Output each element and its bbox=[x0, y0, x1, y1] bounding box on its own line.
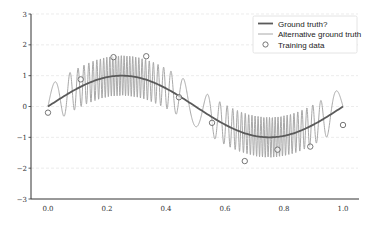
y-tick-label: −1 bbox=[17, 134, 27, 142]
legend-label-ground-truth: Ground truth? bbox=[278, 20, 328, 29]
training-point bbox=[275, 147, 280, 152]
y-tick-label: −2 bbox=[17, 165, 27, 173]
training-point bbox=[209, 120, 214, 125]
training-point bbox=[45, 110, 50, 115]
x-tick-label: 0.4 bbox=[160, 205, 172, 213]
x-tick-label: 0.0 bbox=[42, 205, 53, 213]
chart: 0.00.20.40.60.81.0 3210−1−2−3 Ground tru… bbox=[0, 0, 378, 227]
y-tick-label: 1 bbox=[23, 72, 27, 80]
y-tick-label: 3 bbox=[23, 11, 27, 19]
x-tick-labels: 0.00.20.40.60.81.0 bbox=[42, 205, 348, 213]
x-tick-label: 0.8 bbox=[278, 205, 289, 213]
y-tick-label: 2 bbox=[23, 41, 27, 49]
legend-label-alternative: Alternative ground truth bbox=[278, 30, 361, 39]
training-point bbox=[78, 77, 83, 82]
training-point bbox=[308, 144, 313, 149]
x-tick-label: 0.6 bbox=[219, 205, 231, 213]
legend: Ground truth? Alternative ground truth T… bbox=[253, 16, 361, 53]
legend-label-training-data: Training data bbox=[278, 41, 325, 50]
y-tick-label: 0 bbox=[23, 103, 27, 111]
training-point bbox=[242, 158, 247, 163]
x-tick-label: 1.0 bbox=[337, 205, 348, 213]
x-tick-label: 0.2 bbox=[101, 205, 112, 213]
training-point bbox=[340, 122, 345, 127]
y-tick-label: −3 bbox=[17, 196, 27, 204]
training-point bbox=[111, 54, 116, 59]
training-point bbox=[144, 54, 149, 59]
training-point bbox=[176, 95, 181, 100]
y-tick-labels: 3210−1−2−3 bbox=[17, 11, 31, 204]
